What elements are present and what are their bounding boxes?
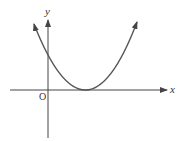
y-axis-label: y bbox=[44, 5, 50, 17]
parabola-left-arrow bbox=[34, 24, 60, 74]
origin-label: O bbox=[39, 91, 46, 102]
x-axis-label: x bbox=[169, 83, 175, 95]
parabola-graph: x y O bbox=[0, 0, 186, 141]
parabola-curve bbox=[34, 22, 137, 90]
